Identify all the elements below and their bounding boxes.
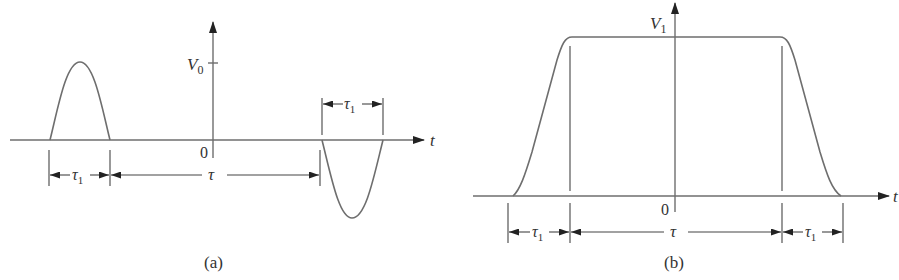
origin-label-b: 0 — [661, 201, 669, 218]
panel-a: V0 0 t τ1 τ τ1 (a) — [10, 22, 436, 272]
caption-b: (b) — [664, 253, 684, 272]
tau1-dimension-label-a-right: τ1 — [344, 95, 355, 115]
origin-label-a: 0 — [200, 144, 208, 161]
caption-a: (a) — [204, 253, 223, 272]
v1-label: V1 — [650, 14, 666, 36]
tau1-dimension-label-a-left: τ1 — [72, 166, 83, 186]
pulse-waveform-figure: V0 0 t τ1 τ τ1 (a) V1 — [0, 0, 899, 280]
negative-half-sine-pulse — [322, 140, 383, 218]
tau-dimension-label-b: τ — [670, 222, 677, 241]
tau1-dimension-label-b-left: τ1 — [532, 223, 543, 243]
v0-label: V0 — [187, 55, 203, 77]
tau-dimension-label-a: τ — [208, 165, 215, 184]
tau1-dimension-label-b-right: τ1 — [805, 223, 816, 243]
t-axis-label-b: t — [893, 187, 899, 206]
panel-b: V1 0 t τ1 τ τ1 (b) — [473, 3, 899, 272]
t-axis-label-a: t — [430, 131, 436, 150]
trapezoidal-pulse — [513, 37, 841, 196]
positive-half-sine-pulse — [50, 62, 110, 140]
